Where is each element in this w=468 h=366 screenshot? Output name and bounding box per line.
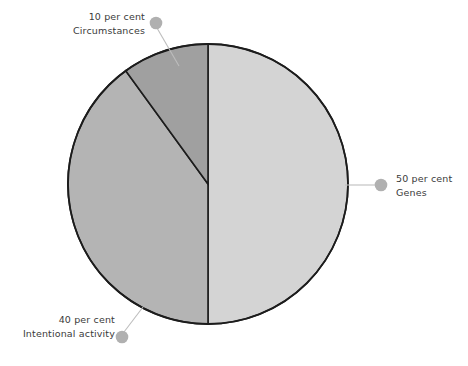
callout-name-genes: Genes [396, 186, 468, 200]
callout-name-intentional-activity: Intentional activity [0, 327, 115, 341]
callout-label-genes: 50 per cent Genes [396, 172, 468, 199]
leader-line-intentional-activity [124, 307, 143, 332]
pie-chart-figure: 10 per cent Circumstances 50 per cent Ge… [0, 0, 468, 366]
callout-value-genes: 50 per cent [396, 172, 468, 186]
pie-slice-genes[interactable] [208, 44, 348, 324]
leader-dot-genes[interactable] [375, 179, 388, 192]
leader-dot-circumstances[interactable] [150, 17, 163, 30]
callout-label-intentional-activity: 40 per cent Intentional activity [0, 313, 115, 340]
callout-label-circumstances: 10 per cent Circumstances [0, 10, 145, 37]
callout-name-circumstances: Circumstances [0, 24, 145, 38]
leader-dot-intentional-activity[interactable] [116, 331, 129, 344]
callout-value-circumstances: 10 per cent [0, 10, 145, 24]
callout-value-intentional-activity: 40 per cent [0, 313, 115, 327]
